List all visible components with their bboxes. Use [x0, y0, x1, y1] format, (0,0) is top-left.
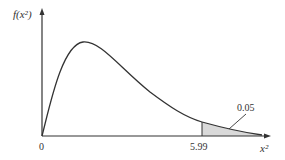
- critical-value-label: 5.99: [190, 141, 208, 152]
- origin-label: 0: [39, 141, 44, 152]
- x-axis-label: x²: [259, 142, 269, 154]
- chi-square-chart: f(x²) 0 5.99 x² 0.05: [0, 0, 285, 160]
- y-axis-arrow-icon: [40, 8, 45, 15]
- y-axis-label: f(x²): [13, 8, 32, 21]
- density-curve: [42, 42, 262, 136]
- x-axis-arrow-icon: [264, 134, 271, 139]
- tail-area-label: 0.05: [237, 102, 255, 113]
- annotation-leader-line: [229, 114, 246, 129]
